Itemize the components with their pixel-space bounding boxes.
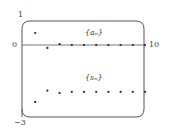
data-point — [144, 91, 146, 93]
data-point — [83, 44, 85, 46]
data-point — [95, 44, 97, 46]
data-point — [71, 91, 73, 93]
data-point — [95, 91, 97, 93]
data-point — [132, 44, 134, 46]
plot-area — [0, 0, 182, 128]
y-tick-minus3: −3 — [14, 119, 26, 127]
data-point — [34, 32, 36, 34]
frame — [22, 21, 144, 117]
series-s-dots — [34, 90, 146, 103]
data-point — [120, 91, 122, 93]
data-point — [132, 91, 134, 93]
data-point — [34, 101, 36, 103]
data-point — [144, 44, 146, 46]
data-point — [59, 43, 61, 45]
data-point — [120, 44, 122, 46]
data-point — [46, 47, 48, 49]
data-point — [107, 44, 109, 46]
legend-a: {aₙ} — [85, 29, 103, 37]
data-point — [107, 91, 109, 93]
y-tick-1: 1 — [18, 11, 23, 19]
y-tick-0: 0 — [12, 41, 17, 49]
data-point — [59, 92, 61, 94]
data-point — [71, 44, 73, 46]
legend-s: {sₙ} — [85, 74, 103, 82]
data-point — [83, 91, 85, 93]
data-point — [46, 90, 48, 92]
x-tick-10: 10 — [149, 41, 159, 49]
